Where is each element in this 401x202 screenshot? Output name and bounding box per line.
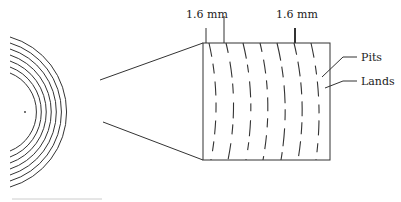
pits-label: Pits	[361, 52, 382, 63]
track-3	[243, 43, 251, 160]
track-5	[277, 43, 285, 160]
projection-line-top	[100, 43, 203, 80]
track-pitch-label-right: 1.6 mm	[276, 9, 318, 20]
lands-label: Lands	[361, 76, 395, 87]
cd-track-diagram: 1.6 mm 1.6 mm Pits Lands	[0, 0, 401, 202]
disc-center-dot	[24, 111, 26, 113]
pits-leader	[322, 57, 357, 77]
track-2	[226, 43, 234, 160]
projection-line-bottom	[103, 122, 203, 160]
track-1	[209, 43, 216, 160]
track-pitch-label-left: 1.6 mm	[186, 9, 228, 20]
track-4	[260, 43, 268, 160]
track-7	[311, 43, 319, 160]
magnified-track-view	[203, 43, 330, 160]
track-6	[294, 43, 302, 160]
tracks	[209, 43, 319, 160]
diagram-canvas	[0, 0, 401, 202]
disc-rings	[10, 37, 67, 187]
